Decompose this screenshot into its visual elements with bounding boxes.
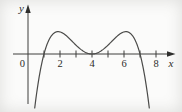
y-axis-label: y [18, 2, 24, 14]
plot-svg: 2468 y 0 x [0, 0, 182, 112]
x-axis-arrow-icon [167, 51, 176, 56]
curve [35, 32, 150, 108]
x-tick-label: 8 [153, 58, 158, 69]
origin-label: 0 [20, 58, 25, 69]
function-graph-figure: 2468 y 0 x [0, 0, 182, 112]
x-axis-label: x [168, 57, 174, 69]
x-tick-label: 4 [89, 58, 95, 69]
y-axis-arrow-icon [25, 5, 30, 14]
x-tick-label: 6 [121, 58, 126, 69]
x-tick-label: 2 [57, 58, 62, 69]
